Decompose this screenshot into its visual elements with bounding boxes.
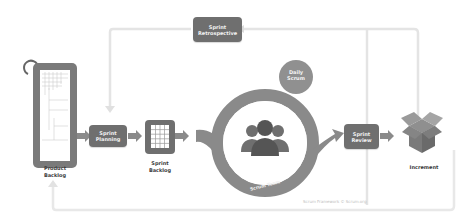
sprint-review-label-1: Sprint (351, 131, 371, 137)
sprint-backlog-label: Sprint Backlog (140, 160, 180, 174)
arrowhead-planning (105, 106, 115, 113)
sprint-planning-box: Sprint Planning (89, 125, 127, 147)
product-backlog-label: Product Backlog (34, 165, 76, 179)
sprint-retrospective-box: Sprint Retrospective (193, 17, 242, 42)
product-backlog-label-1: Product (34, 165, 76, 172)
sprint-review-box: Sprint Review (344, 124, 379, 149)
product-backlog-label-2: Backlog (34, 172, 76, 179)
arrowhead-product-backlog (48, 180, 58, 187)
sprint-review-label-2: Review (351, 137, 371, 143)
sprint-backlog-label-2: Backlog (140, 167, 180, 174)
increment-box-icon (401, 112, 443, 153)
daily-scrum-label-2: Scrum (283, 75, 309, 81)
daily-scrum-label: Daily Scrum (283, 69, 309, 81)
sprint-retrospective-label-2: Retrospective (198, 30, 237, 36)
credit-text: Scrum Framework © Scrum.org (303, 199, 366, 204)
increment-label: Increment (402, 164, 446, 171)
sprint-backlog-label-1: Sprint (140, 160, 180, 167)
sprint-planning-label-2: Planning (96, 136, 121, 142)
